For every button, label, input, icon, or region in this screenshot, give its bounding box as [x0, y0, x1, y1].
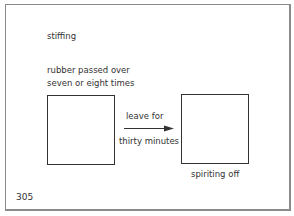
arrow-icon [0, 0, 294, 216]
page-number: 305 [16, 191, 33, 204]
thirty-minutes-label: thirty minutes [119, 135, 179, 148]
spiriting-off-label: spiriting off [191, 168, 239, 181]
